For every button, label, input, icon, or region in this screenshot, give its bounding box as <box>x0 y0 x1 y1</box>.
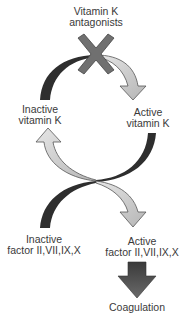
label-active-vitamin-k: Active vitamin K <box>118 107 178 129</box>
label-inactive-factors: Inactive factor II,VII,IX,X <box>2 234 86 256</box>
label-inactive-vitamin-k: Inactive vitamin K <box>10 104 70 126</box>
light-arrow-middle-left <box>36 128 96 181</box>
active-vitamin-k-line2: vitamin K <box>118 118 178 129</box>
active-factors-line2: factor II,VII,IX,X <box>100 247 184 258</box>
antagonists-line2: antagonists <box>66 17 126 28</box>
vitamin-k-cycle-diagram <box>0 0 188 322</box>
dark-band-middle-right <box>96 133 156 182</box>
coagulation-line1: Coagulation <box>104 302 170 313</box>
dark-band-bottom-left <box>40 181 96 228</box>
inactive-factors-line2: factor II,VII,IX,X <box>2 245 86 256</box>
label-active-factors: Active factor II,VII,IX,X <box>100 236 184 258</box>
down-arrow-icon <box>118 262 156 298</box>
light-arrow-bottom-right <box>96 181 146 227</box>
label-vitamin-k-antagonists: Vitamin K antagonists <box>66 6 126 28</box>
x-mark-icon <box>78 34 114 74</box>
label-coagulation: Coagulation <box>104 302 170 313</box>
inactive-vitamin-k-line2: vitamin K <box>10 115 70 126</box>
